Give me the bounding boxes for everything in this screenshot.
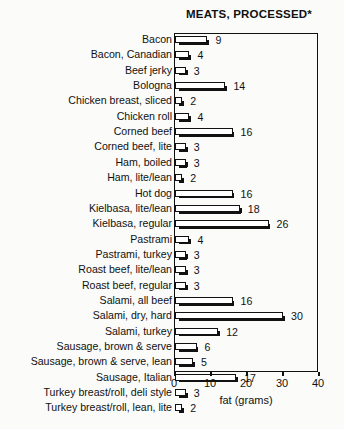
bar-row: Beef jerky3 — [0, 64, 344, 79]
bar-row: Pastrami, turkey3 — [0, 248, 344, 263]
category-label: Corned beef — [0, 125, 172, 138]
bar — [175, 113, 189, 120]
bar-row: Sausage, brown & serve6 — [0, 340, 344, 355]
bar-row: Roast beef, regular3 — [0, 279, 344, 294]
x-axis: 010203040 — [174, 372, 318, 392]
bar-row: Bologna14 — [0, 79, 344, 94]
bar-value-label: 18 — [248, 203, 260, 216]
bar-wrapper: 4 — [175, 113, 189, 120]
bar-value-label: 14 — [233, 80, 245, 93]
category-label: Bacon — [0, 33, 172, 46]
bar-row: Kielbasa, regular26 — [0, 217, 344, 232]
category-label: Chicken roll — [0, 110, 172, 123]
bar — [175, 266, 186, 273]
category-label: Turkey breast/roll, deli style — [0, 386, 172, 399]
x-tick-label: 30 — [267, 377, 297, 389]
bar-value-label: 6 — [205, 341, 211, 354]
bar-row: Salami, dry, hard30 — [0, 309, 344, 324]
bar-row: Salami, turkey12 — [0, 325, 344, 340]
bar-value-label: 4 — [197, 49, 203, 62]
bar-wrapper: 5 — [175, 358, 193, 365]
bar-row: Corned beef16 — [0, 125, 344, 140]
bar — [175, 67, 186, 74]
bar-value-label: 30 — [291, 310, 303, 323]
bar-wrapper: 30 — [175, 312, 283, 319]
bar — [175, 97, 182, 104]
chart-container: MEATS, PROCESSED* Bacon9Bacon, Canadian4… — [0, 0, 344, 429]
bar-wrapper: 3 — [175, 251, 186, 258]
chart-title: MEATS, PROCESSED* — [174, 8, 324, 20]
category-label: Beef jerky — [0, 64, 172, 77]
bar-wrapper: 12 — [175, 328, 218, 335]
bar-wrapper: 6 — [175, 343, 197, 350]
bar — [175, 128, 233, 135]
bar-wrapper: 3 — [175, 159, 186, 166]
bar-value-label: 26 — [277, 218, 289, 231]
category-label: Bacon, Canadian — [0, 48, 172, 61]
bar-wrapper: 3 — [175, 67, 186, 74]
bar — [175, 328, 218, 335]
bar-wrapper: 16 — [175, 297, 233, 304]
bar-row: Sausage, brown & serve, lean5 — [0, 355, 344, 370]
bar-row: Chicken breast, sliced2 — [0, 94, 344, 109]
bar-row: Salami, all beef16 — [0, 294, 344, 309]
bar — [175, 82, 225, 89]
category-label: Bologna — [0, 79, 172, 92]
bar — [175, 190, 233, 197]
category-label: Salami, turkey — [0, 325, 172, 338]
bar — [175, 236, 189, 243]
category-label: Ham, boiled — [0, 156, 172, 169]
bar-row: Corned beef, lite3 — [0, 140, 344, 155]
category-label: Sausage, Italian — [0, 371, 172, 384]
category-label: Kielbasa, lite/lean — [0, 202, 172, 215]
x-tick-mark — [318, 372, 320, 376]
bar — [175, 312, 283, 319]
category-label: Sausage, brown & serve, lean — [0, 355, 172, 368]
bar-value-label: 3 — [194, 264, 200, 277]
category-label: Salami, all beef — [0, 294, 172, 307]
x-tick-mark — [174, 372, 176, 376]
bar — [175, 297, 233, 304]
bar-wrapper: 4 — [175, 51, 189, 58]
bar-row: Pastrami4 — [0, 233, 344, 248]
bar-wrapper: 16 — [175, 128, 233, 135]
category-label: Chicken breast, sliced — [0, 94, 172, 107]
bar-rows: Bacon9Bacon, Canadian4Beef jerky3Bologna… — [0, 33, 344, 372]
x-tick-label: 0 — [159, 377, 189, 389]
bar — [175, 358, 193, 365]
bar-wrapper: 3 — [175, 143, 186, 150]
bar — [175, 282, 186, 289]
category-label: Pastrami, turkey — [0, 248, 172, 261]
bar-value-label: 16 — [241, 295, 253, 308]
bar-row: Hot dog16 — [0, 187, 344, 202]
x-tick-label: 10 — [195, 377, 225, 389]
bar-wrapper: 3 — [175, 282, 186, 289]
bar-wrapper: 2 — [175, 174, 182, 181]
bar-row: Kielbasa, lite/lean18 — [0, 202, 344, 217]
bar-value-label: 12 — [226, 326, 238, 339]
category-label: Ham, lite/lean — [0, 171, 172, 184]
bar-wrapper: 16 — [175, 190, 233, 197]
category-label: Sausage, brown & serve — [0, 340, 172, 353]
bar-wrapper: 14 — [175, 82, 225, 89]
bar-value-label: 5 — [201, 356, 207, 369]
x-tick-label: 20 — [231, 377, 261, 389]
bar-value-label: 2 — [190, 172, 196, 185]
bar — [175, 251, 186, 258]
bar-value-label: 3 — [194, 280, 200, 293]
bar-value-label: 3 — [194, 141, 200, 154]
category-label: Hot dog — [0, 187, 172, 200]
category-label: Corned beef, lite — [0, 140, 172, 153]
bar-wrapper: 2 — [175, 97, 182, 104]
bar — [175, 220, 269, 227]
bar-row: Ham, boiled3 — [0, 156, 344, 171]
bar-wrapper: 3 — [175, 266, 186, 273]
bar-value-label: 3 — [194, 65, 200, 78]
bar-value-label: 16 — [241, 188, 253, 201]
bar — [175, 143, 186, 150]
x-axis-title: fat (grams) — [174, 394, 318, 406]
bar — [175, 205, 240, 212]
category-label: Salami, dry, hard — [0, 309, 172, 322]
bar-row: Chicken roll4 — [0, 110, 344, 125]
bar-wrapper: 26 — [175, 220, 269, 227]
